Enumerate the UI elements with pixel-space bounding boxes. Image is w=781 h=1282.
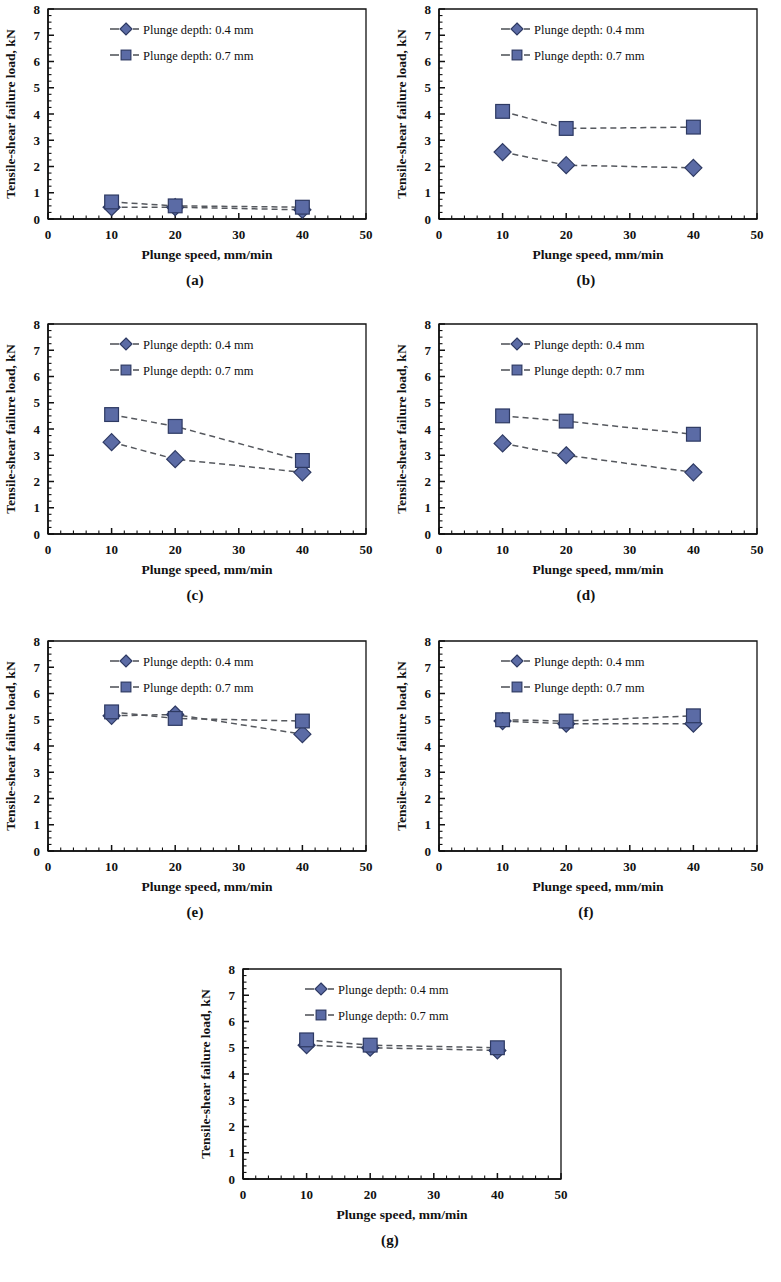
y-tick-label: 0 — [425, 212, 432, 227]
y-tick-label: 4 — [425, 422, 432, 437]
series-1 — [494, 144, 702, 177]
chart-panel-d: 01020304050012345678Plunge speed, mm/min… — [391, 315, 781, 630]
y-tick-label: 0 — [34, 844, 41, 859]
x-tick-label: 50 — [751, 859, 764, 874]
y-axis-ticks — [439, 324, 445, 534]
y-tick-label: 0 — [425, 527, 432, 542]
diamond-marker — [558, 447, 575, 464]
y-tick-label: 4 — [34, 422, 41, 437]
series-1 — [494, 713, 702, 733]
y-tick-label: 1 — [229, 1145, 236, 1160]
legend-label: Plunge depth: 0.4 mm — [338, 983, 449, 997]
y-tick-label: 7 — [34, 28, 41, 43]
legend-item: Plunge depth: 0.7 mm — [110, 681, 254, 695]
plot-area: 01020304050012345678Plunge speed, mm/min… — [391, 632, 781, 900]
x-axis-ticks — [48, 528, 366, 534]
y-tick-label: 6 — [34, 369, 41, 384]
x-tick-label: 0 — [240, 1187, 247, 1202]
x-tick-label: 20 — [364, 1187, 377, 1202]
square-marker — [496, 713, 510, 727]
square-marker — [496, 409, 510, 423]
y-tick-label: 5 — [34, 712, 41, 727]
x-axis-ticks — [48, 213, 366, 219]
x-tick-label: 20 — [169, 859, 182, 874]
y-tick-label: 0 — [425, 844, 432, 859]
y-tick-label: 4 — [229, 1067, 236, 1082]
square-marker — [687, 120, 701, 134]
chart-panel-e: 01020304050012345678Plunge speed, mm/min… — [0, 632, 390, 947]
series-line — [503, 443, 694, 472]
x-tick-label: 40 — [491, 1187, 504, 1202]
y-tick-label: 2 — [34, 791, 41, 806]
legend-item: Plunge depth: 0.4 mm — [110, 655, 254, 669]
square-marker — [512, 682, 522, 692]
y-tick-label: 7 — [34, 660, 41, 675]
x-tick-label: 0 — [436, 542, 443, 557]
panel-caption-g: (g) — [195, 1232, 585, 1249]
y-tick-label: 1 — [34, 500, 41, 515]
series-1 — [103, 434, 311, 481]
legend-item: Plunge depth: 0.7 mm — [305, 1009, 449, 1023]
x-tick-labels: 01020304050 — [45, 859, 373, 874]
legend: Plunge depth: 0.4 mmPlunge depth: 0.7 mm — [501, 655, 645, 695]
series-2 — [105, 408, 310, 468]
y-axis-title: Tensile-shear failure load, kN — [3, 344, 18, 514]
series-line — [503, 111, 694, 128]
x-tick-labels: 01020304050 — [45, 542, 373, 557]
x-tick-label: 20 — [169, 227, 182, 242]
y-tick-label: 1 — [425, 185, 432, 200]
chart-e: 01020304050012345678Plunge speed, mm/min… — [0, 632, 390, 900]
diamond-marker — [685, 464, 702, 481]
y-tick-label: 8 — [425, 634, 432, 649]
y-tick-label: 0 — [34, 527, 41, 542]
chart-a: 01020304050012345678Plunge speed, mm/min… — [0, 0, 390, 268]
x-tick-label: 10 — [105, 859, 118, 874]
y-axis-title: Tensile-shear failure load, kN — [394, 344, 409, 514]
y-tick-label: 1 — [34, 185, 41, 200]
y-tick-label: 4 — [425, 107, 432, 122]
x-tick-labels: 01020304050 — [436, 227, 764, 242]
x-axis-title: Plunge speed, mm/min — [142, 879, 273, 894]
plot-area: 01020304050012345678Plunge speed, mm/min… — [391, 0, 781, 268]
series-2 — [496, 709, 701, 728]
legend-item: Plunge depth: 0.7 mm — [501, 49, 645, 63]
y-axis-title: Tensile-shear failure load, kN — [3, 29, 18, 199]
x-tick-label: 50 — [751, 542, 764, 557]
legend-label: Plunge depth: 0.7 mm — [143, 681, 254, 695]
y-tick-label: 2 — [425, 159, 432, 174]
y-tick-label: 2 — [229, 1119, 236, 1134]
square-marker — [363, 1038, 377, 1052]
series-line — [503, 152, 694, 168]
x-tick-label: 10 — [300, 1187, 313, 1202]
y-axis-ticks — [439, 9, 445, 219]
x-tick-label: 30 — [623, 227, 636, 242]
legend-label: Plunge depth: 0.4 mm — [534, 23, 645, 37]
x-tick-label: 40 — [296, 542, 309, 557]
chart-d: 01020304050012345678Plunge speed, mm/min… — [391, 315, 781, 583]
y-tick-label: 4 — [34, 739, 41, 754]
y-tick-label: 6 — [425, 686, 432, 701]
y-tick-label: 2 — [34, 159, 41, 174]
y-tick-label: 5 — [34, 395, 41, 410]
y-tick-label: 5 — [425, 395, 432, 410]
y-tick-label: 3 — [425, 133, 432, 148]
x-tick-label: 40 — [687, 859, 700, 874]
diamond-marker — [494, 435, 511, 452]
diamond-marker — [120, 655, 132, 667]
x-axis-ticks — [439, 528, 757, 534]
y-axis-title: Tensile-shear failure load, kN — [394, 29, 409, 199]
legend-label: Plunge depth: 0.4 mm — [143, 338, 254, 352]
plot-area: 01020304050012345678Plunge speed, mm/min… — [0, 315, 390, 583]
diamond-marker — [103, 434, 120, 451]
y-tick-label: 3 — [425, 448, 432, 463]
diamond-marker — [167, 451, 184, 468]
square-marker — [168, 419, 182, 433]
y-tick-label: 5 — [425, 712, 432, 727]
x-tick-label: 50 — [751, 227, 764, 242]
y-axis-ticks — [48, 9, 54, 219]
legend-item: Plunge depth: 0.4 mm — [110, 338, 254, 352]
y-axis-ticks — [48, 641, 54, 851]
series-line — [307, 1040, 498, 1048]
square-marker — [559, 714, 573, 728]
y-tick-label: 0 — [229, 1172, 236, 1187]
